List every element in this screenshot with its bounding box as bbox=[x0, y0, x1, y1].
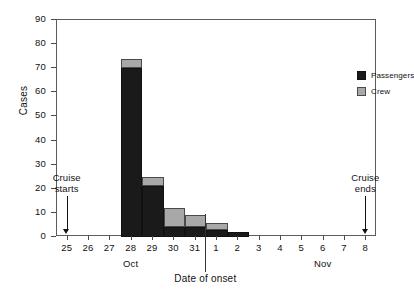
x-axis-tick-label: 8 bbox=[353, 242, 377, 253]
legend-swatch-passengers bbox=[357, 71, 366, 80]
x-axis-tick-mark bbox=[109, 236, 110, 240]
annotation-cruise-starts-text: Cruise starts bbox=[39, 172, 95, 194]
y-axis-tick-label: 50 bbox=[35, 108, 46, 121]
bar-segment-crew bbox=[164, 208, 185, 227]
y-axis-tick-label: 70 bbox=[35, 60, 46, 73]
x-axis-tick-mark bbox=[237, 236, 238, 240]
legend-label-passengers: Passengers bbox=[371, 69, 414, 82]
annotation-cruise-starts-arrow-head bbox=[63, 229, 69, 234]
bar-segment-passengers bbox=[185, 227, 206, 237]
y-axis-tick-label: 0 bbox=[41, 229, 46, 242]
y-axis-tick: 40 bbox=[0, 140, 56, 141]
y-axis-tick-label: 80 bbox=[35, 36, 46, 49]
y-axis-tick: 50 bbox=[0, 115, 56, 116]
annotation-cruise-starts-arrow-stem bbox=[67, 196, 68, 229]
legend-swatch-crew bbox=[357, 87, 366, 96]
y-axis-tick-label: 90 bbox=[35, 12, 46, 25]
y-axis-tick-mark bbox=[51, 236, 56, 237]
annotation-cruise-ends-line1: Cruise bbox=[351, 172, 379, 183]
annotation-cruise-ends-line2: ends bbox=[355, 183, 376, 194]
y-axis-tick-label: 30 bbox=[35, 157, 46, 170]
month-label-nov: Nov bbox=[303, 258, 343, 269]
x-axis-tick-mark bbox=[67, 236, 68, 240]
y-axis-title: Cases bbox=[18, 66, 29, 136]
y-axis-tick: 70 bbox=[0, 67, 56, 68]
annotation-cruise-ends-arrow-stem bbox=[365, 196, 366, 229]
x-axis-tick-mark bbox=[195, 236, 196, 240]
y-axis-tick-label: 40 bbox=[35, 133, 46, 146]
annotation-cruise-starts-line2: starts bbox=[55, 183, 79, 194]
bar-segment-crew bbox=[121, 59, 142, 69]
x-axis-tick-mark bbox=[323, 236, 324, 240]
x-axis-tick-mark bbox=[344, 236, 345, 240]
bar-segment-crew bbox=[142, 177, 163, 187]
x-axis-title: Date of onset bbox=[135, 273, 275, 284]
annotation-cruise-ends-text: Cruise ends bbox=[337, 172, 393, 194]
y-axis-tick: 0 bbox=[0, 236, 56, 237]
x-axis-tick-mark bbox=[280, 236, 281, 240]
x-axis-tick-mark bbox=[216, 236, 217, 240]
y-axis-tick: 10 bbox=[0, 212, 56, 213]
bar-segment-passengers bbox=[121, 68, 142, 237]
y-axis-tick: 80 bbox=[0, 43, 56, 44]
bar-segment-passengers bbox=[142, 186, 163, 237]
x-axis-tick-mark bbox=[152, 236, 153, 240]
y-axis-tick: 30 bbox=[0, 164, 56, 165]
annotation-cruise-starts-line1: Cruise bbox=[53, 172, 81, 183]
x-axis-tick-mark bbox=[173, 236, 174, 240]
bar-segment-crew bbox=[185, 215, 206, 227]
legend-label-crew: Crew bbox=[371, 85, 390, 98]
y-axis-tick-label: 10 bbox=[35, 205, 46, 218]
x-axis-tick-mark bbox=[259, 236, 260, 240]
date-of-onset-pointer-line bbox=[205, 214, 206, 272]
y-axis-tick-label: 60 bbox=[35, 84, 46, 97]
x-axis-tick-mark bbox=[88, 236, 89, 240]
y-axis-tick: 90 bbox=[0, 19, 56, 20]
plot-area: Passengers Crew bbox=[56, 19, 376, 236]
bar-segment-crew bbox=[206, 223, 227, 230]
y-axis-tick: 60 bbox=[0, 91, 56, 92]
x-axis-tick-mark bbox=[301, 236, 302, 240]
x-axis-tick-mark bbox=[365, 236, 366, 240]
month-label-oct: Oct bbox=[111, 258, 151, 269]
x-axis-tick-mark bbox=[131, 236, 132, 240]
annotation-cruise-ends-arrow-head bbox=[362, 229, 368, 234]
